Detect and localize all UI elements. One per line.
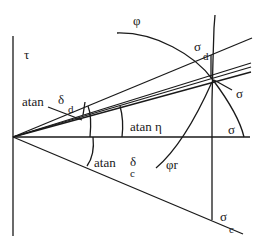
atan-delta-c-arc [87,137,93,166]
sigma-d-label: σ [194,40,201,53]
vertical-line [212,15,215,220]
tau-label: τ [24,48,29,61]
sigma-d-subscript: d [203,51,209,62]
delta-d-marker [48,107,82,120]
phi-label: φ [133,14,141,27]
delta-c-line [13,137,243,234]
atan-eta-arc [120,106,123,137]
atan-delta-d-label: atan [22,95,44,108]
atan-eta-label: atan η [130,120,162,133]
phi-r-label: φr [166,158,178,171]
delta-d-subscript: d [68,104,74,115]
delta-c-subscript: c [130,168,135,179]
atan-delta-d-arc [88,106,91,137]
sigma-c-subscript: c [229,224,234,235]
sigma-c-label: σ [220,210,227,223]
phi-r-curve [156,82,212,168]
delta-d-symbol: δ [58,93,64,106]
stress-diagram: τ atan δ d atan η atan δ c φr φ σ d σ σ … [0,0,267,246]
sigma-axis-label: σ [228,123,235,136]
sigma-point-label: σ [236,87,243,100]
atan-delta-c-label: atan [94,156,116,169]
